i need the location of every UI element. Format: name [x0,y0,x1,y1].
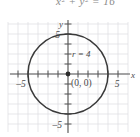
y-tick-label-negative-5: –5 [52,120,63,130]
x-tick-label-negative-5: –5 [15,79,26,89]
equation-caption: x² + y² = 16 [56,0,115,7]
origin-point-label: (0, 0) [71,78,92,89]
y-axis-label: y [58,19,63,29]
y-tick-label-positive-5: 5 [55,30,60,40]
coordinate-plane-svg: y x –5 5 5 –5 r = 4 (0, 0) [0,0,140,137]
radius-annotation: r = 4 [72,49,91,59]
x-tick-label-positive-5: 5 [115,79,120,89]
x-axis-label: x [130,70,135,80]
equation-text: x² + y² = 16 [56,0,115,7]
origin-point-marker [66,72,71,77]
circle-graph-figure: x² + y² = 16 [0,0,140,137]
